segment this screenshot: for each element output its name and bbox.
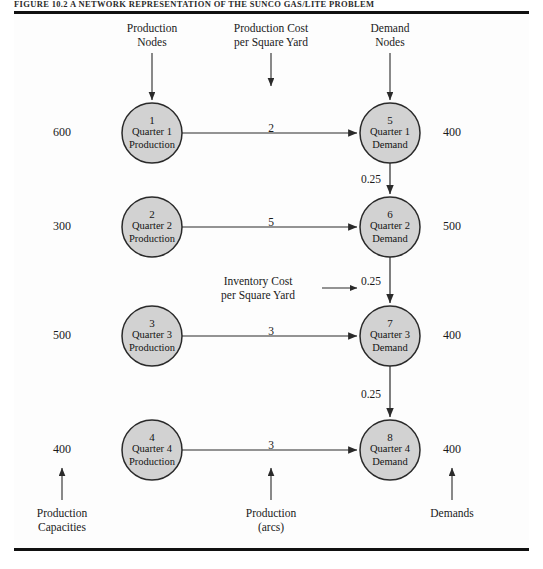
inventory-cost-label-7-8: 0.25 [351, 388, 391, 400]
demand-node-5 [360, 103, 420, 163]
inventory-cost-label-6-7: 0.25 [351, 275, 391, 287]
demand-value-5: 400 [422, 126, 482, 140]
demand-node-6 [360, 197, 420, 257]
supply-node-1 [122, 103, 182, 163]
demand-node-7 [360, 306, 420, 366]
production-cost-label-4-8: 3 [251, 439, 291, 451]
bottom-label-demands: Demands [387, 507, 517, 521]
top-label-production-cost: Production Cost per Square Yard [206, 22, 336, 49]
top-label-production-nodes: Production Nodes [87, 22, 217, 49]
capacity-value-4: 400 [32, 443, 92, 457]
capacity-value-3: 500 [32, 329, 92, 343]
production-cost-label-1-5: 2 [251, 122, 291, 134]
inventory-cost-label-5-6: 0.25 [351, 173, 391, 185]
demand-value-7: 400 [422, 329, 482, 343]
annotation-inventory-cost: Inventory Cost per Square Yard [193, 275, 323, 302]
bottom-label-production-capacities: Production Capacities [0, 507, 127, 534]
supply-node-4 [122, 420, 182, 480]
production-cost-label-3-7: 3 [251, 325, 291, 337]
production-cost-label-2-6: 5 [251, 216, 291, 228]
bottom-label-production-arcs: Production (arcs) [206, 507, 336, 534]
demand-value-8: 400 [422, 443, 482, 457]
top-label-demand-nodes: Demand Nodes [325, 22, 455, 49]
supply-node-3 [122, 306, 182, 366]
demand-value-6: 500 [422, 220, 482, 234]
capacity-value-1: 600 [32, 126, 92, 140]
supply-node-2 [122, 197, 182, 257]
demand-node-8 [360, 420, 420, 480]
capacity-value-2: 300 [32, 220, 92, 234]
